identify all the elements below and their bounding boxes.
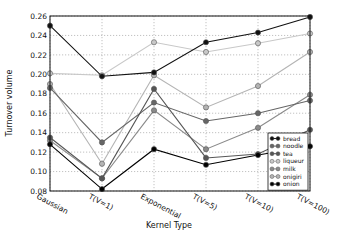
legend-marker [270, 137, 274, 141]
data-point [151, 40, 156, 45]
data-point [255, 111, 260, 116]
data-point [255, 125, 260, 130]
data-point [255, 41, 260, 46]
data-point [99, 74, 104, 79]
legend-marker [276, 144, 280, 148]
data-point [151, 108, 156, 113]
legend-label: milk [283, 165, 296, 172]
x-tick-label: T(V=100) [294, 191, 331, 216]
legend: breadnoodletealiqueurmilkonigirionion [268, 133, 308, 190]
legend-marker [276, 167, 280, 171]
data-point [203, 105, 208, 110]
legend-marker [276, 182, 280, 186]
data-point [203, 162, 208, 167]
legend-marker [276, 152, 280, 156]
series-liqueur [47, 31, 312, 78]
data-point [203, 155, 208, 160]
data-point [255, 30, 260, 35]
legend-marker [276, 159, 280, 163]
y-tick-label: 0.20 [30, 70, 47, 79]
legend-marker [270, 144, 274, 148]
data-point [203, 40, 208, 45]
data-point [151, 70, 156, 75]
y-tick-label: 0.10 [30, 167, 47, 176]
x-tick-label: T(V=10) [242, 191, 275, 214]
data-point [255, 83, 260, 88]
x-tick-label: T(V=1) [86, 191, 115, 212]
y-tick-label: 0.14 [30, 128, 47, 137]
legend-marker [276, 137, 280, 141]
x-tick-label: Exponential [139, 192, 182, 221]
data-point [203, 118, 208, 123]
legend-marker [270, 175, 274, 179]
y-tick-label: 0.24 [30, 31, 47, 40]
legend-marker [270, 167, 274, 171]
data-point [99, 161, 104, 166]
legend-label: noodle [283, 142, 304, 149]
x-tick-label: Gaussian [35, 192, 70, 216]
legend-marker [276, 175, 280, 179]
y-tick-label: 0.22 [30, 51, 47, 60]
y-tick-label: 0.26 [30, 12, 47, 21]
legend-marker [270, 182, 274, 186]
data-point [255, 152, 260, 157]
x-axis-ticks: GaussianT(V=1)ExponentialT(V=5)T(V=10)T(… [35, 191, 331, 220]
data-point [203, 49, 208, 54]
y-tick-label: 0.12 [30, 148, 47, 157]
data-point [151, 86, 156, 91]
legend-marker [270, 152, 274, 156]
legend-label: bread [283, 135, 301, 142]
series-line [50, 34, 310, 76]
y-tick-label: 0.18 [30, 89, 47, 98]
data-point [151, 147, 156, 152]
legend-label: onion [283, 180, 300, 187]
x-tick-label: T(V=5) [190, 191, 219, 212]
data-point [203, 147, 208, 152]
x-axis-label: Kernel Type [146, 221, 192, 230]
data-point [151, 100, 156, 105]
y-tick-label: 0.16 [30, 109, 47, 118]
legend-label: tea [283, 150, 293, 157]
y-axis-label: Turnover volume [5, 69, 14, 137]
legend-marker [270, 159, 274, 163]
data-point [99, 176, 104, 181]
y-axis-ticks: 0.080.100.120.140.160.180.200.220.240.26 [30, 12, 47, 196]
line-chart: 0.080.100.120.140.160.180.200.220.240.26… [0, 0, 342, 243]
data-point [99, 140, 104, 145]
